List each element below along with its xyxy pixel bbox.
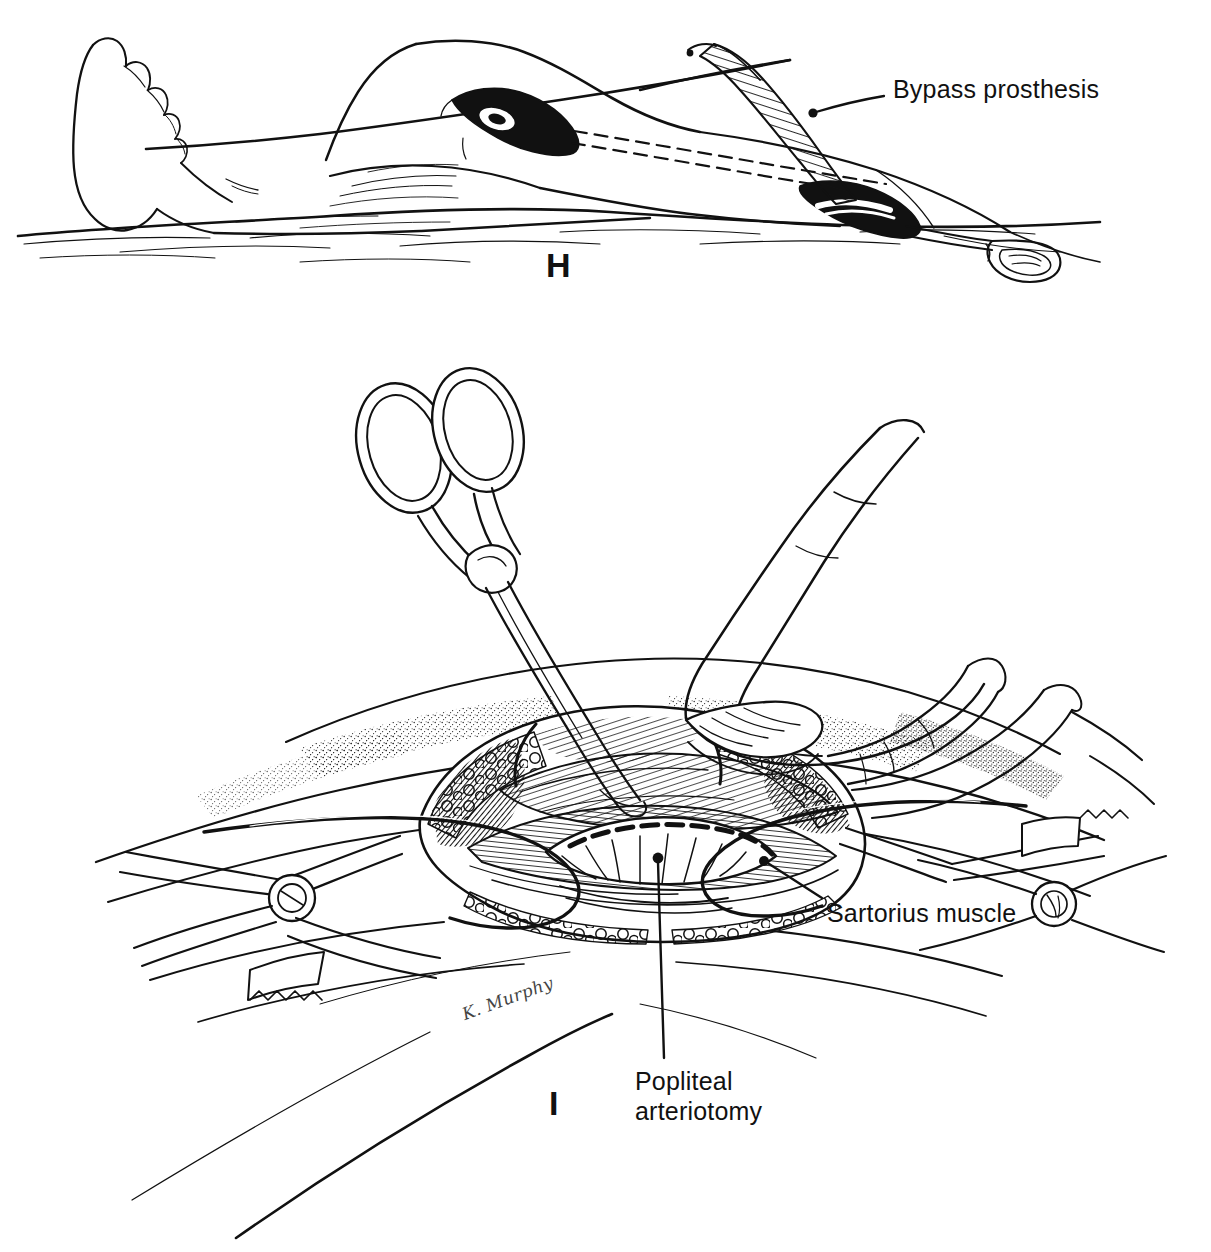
figure-canvas [0, 0, 1211, 1252]
annotation-bypass-prosthesis: Bypass prosthesis [893, 75, 1099, 105]
annotation-popliteal-arteriotomy: Popliteal arteriotomy [635, 1067, 762, 1126]
panel-letter-h: H [546, 246, 571, 285]
tunneler-instrument [906, 226, 1060, 282]
retractor-right [840, 810, 1166, 952]
popliteal-incision-h [441, 88, 579, 159]
foot-h [73, 38, 232, 233]
annotation-sartorius-muscle: Sartorius muscle [827, 899, 1016, 929]
leader-bypass-prosthesis [808, 96, 884, 118]
lower-leg-h [146, 60, 790, 234]
panel-letter-i: I [549, 1084, 558, 1123]
bypass-prosthesis-graft [687, 44, 856, 204]
panel-i-artwork [96, 357, 1166, 1238]
